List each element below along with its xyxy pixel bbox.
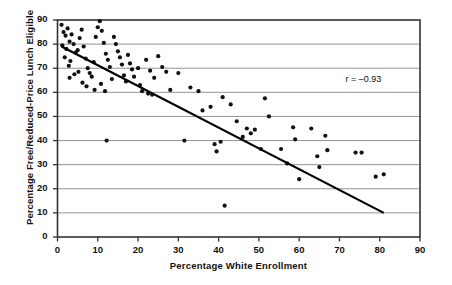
data-point [245,126,249,130]
data-point [63,34,67,38]
data-point [72,42,76,46]
data-point [249,131,253,135]
scatter-plot-figure: Percentage Free/Reduced-Price Lunch Elig… [0,0,452,285]
data-point [70,32,74,36]
data-point [168,88,172,92]
data-point [253,128,257,132]
data-point [382,172,386,176]
data-point [152,76,156,80]
data-point [110,77,114,81]
data-point [325,148,329,152]
data-point [118,55,122,59]
data-point [182,138,186,142]
data-point [148,69,152,73]
data-point [76,70,80,74]
data-point [86,66,90,70]
data-point [99,82,103,86]
data-point [116,49,120,53]
data-point [323,134,327,138]
data-point [128,61,132,65]
data-point [67,64,71,68]
data-point [223,204,227,208]
data-point [67,40,71,44]
data-point [126,53,130,57]
data-point [114,42,118,46]
data-point [84,84,88,88]
data-point [65,26,69,30]
data-point [76,48,80,52]
data-point [88,71,92,75]
data-point [196,89,200,93]
data-point [212,142,216,146]
data-point [208,105,212,109]
data-point [374,175,378,179]
data-point [164,70,168,74]
data-point [105,138,109,142]
data-point [235,119,239,123]
data-point [317,165,321,169]
data-point [130,67,134,71]
regression-line [62,47,384,213]
plot-canvas [0,0,452,285]
data-point [100,29,104,33]
data-point [82,44,86,48]
data-point [293,137,297,141]
data-point [106,58,110,62]
data-point [90,75,94,79]
data-point [61,30,65,34]
data-point [98,19,102,23]
data-point [80,28,84,32]
data-point [315,154,319,158]
data-point [136,66,140,70]
data-point [144,58,148,62]
data-point [267,114,271,118]
data-point [353,151,357,155]
data-point [360,151,364,155]
data-point [215,149,219,153]
data-point [188,85,192,89]
data-point [67,76,71,80]
data-point [219,140,223,144]
data-point [104,52,108,56]
data-point [78,36,82,40]
data-point [112,35,116,39]
data-point [132,75,136,79]
data-point [94,35,98,39]
data-point [108,65,112,69]
data-point [176,71,180,75]
data-point [96,25,100,29]
data-point [263,96,267,100]
data-point [279,147,283,151]
data-point [120,63,124,67]
data-point [103,89,107,93]
data-point [68,59,72,63]
data-point [200,108,204,112]
data-point [309,126,313,130]
data-point [297,177,301,181]
data-point [221,95,225,99]
data-point [102,41,106,45]
data-point [229,102,233,106]
data-point [80,81,84,85]
data-point [160,65,164,69]
data-point [59,23,63,27]
data-point [72,72,76,76]
data-point [291,125,295,129]
data-point [92,88,96,92]
data-point [63,55,67,59]
data-point [156,54,160,58]
